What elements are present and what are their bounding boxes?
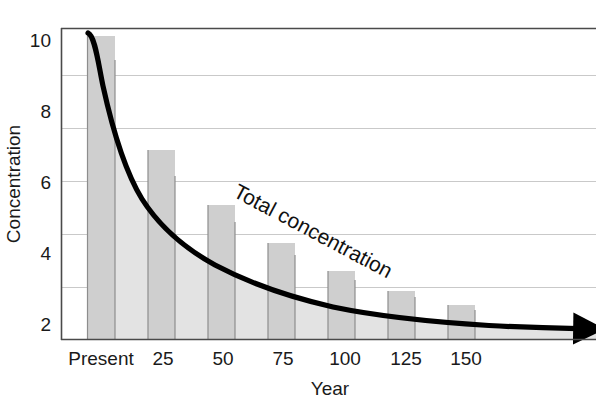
x-tick-label: 100 (329, 348, 361, 369)
x-tick-label: 50 (212, 348, 233, 369)
y-tick-label: 6 (40, 172, 51, 193)
x-tick-labels: Present 25 50 75 100 125 150 (68, 348, 482, 369)
bar-band (148, 150, 175, 340)
x-tick-label: 125 (390, 348, 422, 369)
y-tick-label: 10 (30, 30, 51, 51)
x-tick-label: 25 (152, 348, 173, 369)
y-tick-labels: 10 8 6 4 2 (30, 30, 52, 335)
y-tick-label: 8 (40, 101, 51, 122)
chart-figure: 10 8 6 4 2 Concentration Present 25 50 7… (0, 0, 596, 415)
y-tick-label: 2 (40, 314, 51, 335)
y-tick-label: 4 (40, 243, 51, 264)
x-axis-title: Year (311, 378, 350, 399)
concentration-decay-chart: 10 8 6 4 2 Concentration Present 25 50 7… (0, 0, 596, 415)
x-tick-label: 150 (450, 348, 482, 369)
x-tick-label: 75 (272, 348, 293, 369)
y-axis-title: Concentration (3, 125, 24, 243)
x-tick-label: Present (68, 348, 134, 369)
